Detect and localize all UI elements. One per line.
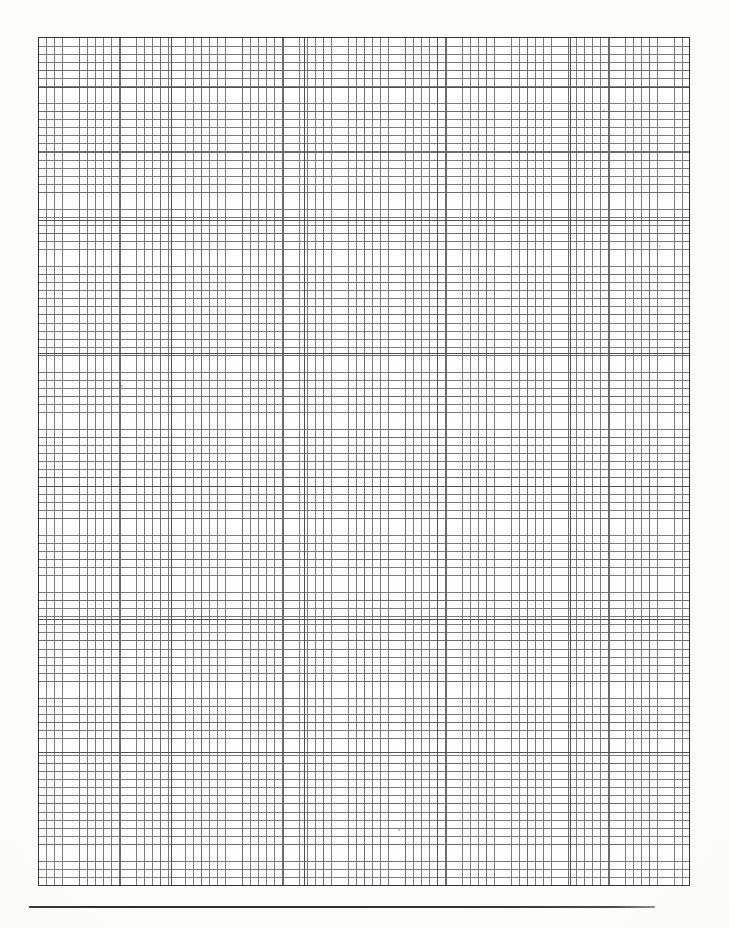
scanned-page [0,0,729,928]
graph-paper-grid [38,37,690,886]
bottom-horizontal-rule [29,906,655,908]
